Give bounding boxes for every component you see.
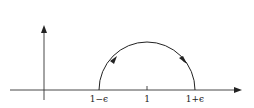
label-one-plus-epsilon: 1+ϵ [186,94,204,104]
semicircle-contour [99,42,195,90]
label-one: 1 [144,94,150,104]
y-axis-arrow-icon [41,25,47,33]
x-axis-arrow-icon [234,87,242,93]
arc-arrow-left-icon [110,56,117,64]
contour-diagram: 1−ϵ 1 1+ϵ [0,0,254,108]
label-one-minus-epsilon: 1−ϵ [90,94,108,104]
